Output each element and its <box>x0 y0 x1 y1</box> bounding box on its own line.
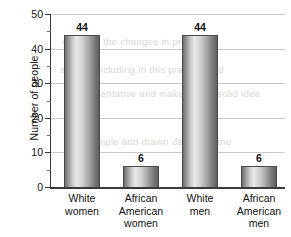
gridline-50 <box>50 14 285 15</box>
x-label-african-american-men: African American men <box>221 192 291 230</box>
y-tick-label: 50 <box>31 8 43 20</box>
x-label-line: American <box>221 205 291 218</box>
y-tick-label: 10 <box>31 146 43 158</box>
bar-value-label: 44 <box>194 21 206 33</box>
tick-mark <box>45 83 51 84</box>
y-tick-label: 0 <box>37 181 43 193</box>
y-minor-tick-15 <box>47 135 51 136</box>
x-label-line: men <box>221 217 291 230</box>
bar-african-american-men: 6 <box>241 166 277 187</box>
bar-value-label: 44 <box>76 21 88 33</box>
plot-area: 50 40 30 20 10 0 44 <box>50 14 285 187</box>
tick-mark <box>45 49 51 50</box>
y-minor-tick-45 <box>47 31 51 32</box>
x-label-line: women <box>103 217 179 230</box>
bar-african-american-women: 6 <box>123 166 159 187</box>
bar-white-women: 44 <box>64 35 100 187</box>
tick-mark <box>45 187 51 188</box>
x-label-line: African <box>221 192 291 205</box>
y-minor-tick-35 <box>47 66 51 67</box>
bar-chart-figure: consider the changes in proportion alcoh… <box>0 0 291 237</box>
y-minor-tick-5 <box>47 170 51 171</box>
bar-value-label: 6 <box>138 152 144 164</box>
bar-value-label: 6 <box>256 152 262 164</box>
tick-mark <box>45 152 51 153</box>
tick-mark <box>45 118 51 119</box>
y-minor-tick-25 <box>47 101 51 102</box>
y-tick-label: 30 <box>31 77 43 89</box>
y-tick-label: 20 <box>31 112 43 124</box>
bar-white-men: 44 <box>182 35 218 187</box>
x-axis-line <box>50 187 285 189</box>
tick-mark <box>45 14 51 15</box>
y-tick-label: 40 <box>31 43 43 55</box>
